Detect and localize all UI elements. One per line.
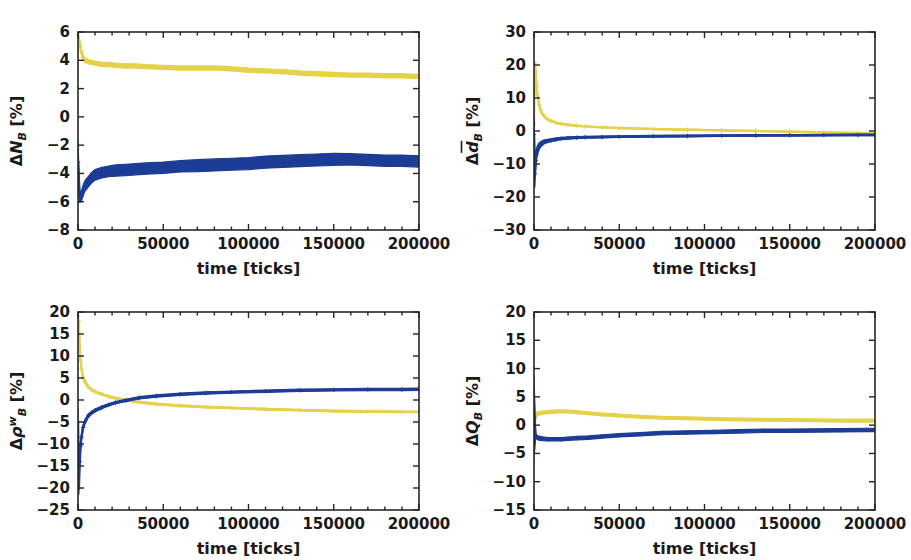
x-axis-label: time [ticks] (197, 539, 301, 558)
svg-text:ΔQB [%]: ΔQB [%] (463, 376, 485, 447)
x-tick-label: 100000 (217, 515, 280, 533)
series-markers-yellow (532, 61, 877, 135)
chart-panel-panel-QB: 050000100000150000200000time [ticks]2015… (456, 280, 911, 560)
y-tick-label: 5 (60, 369, 70, 387)
x-tick-label: 100000 (673, 235, 736, 253)
x-axis-label: time [ticks] (197, 259, 301, 278)
y-tick-label: 5 (516, 388, 526, 406)
series-line-yellow (534, 64, 875, 134)
svg-text:ΔNB [%]: ΔNB [%] (7, 96, 29, 166)
y-axis-label: ΔρwB [%] (6, 372, 29, 451)
svg-text:ΔdB [%]: ΔdB [%] (463, 97, 485, 165)
y-tick-label: 4 (60, 51, 70, 69)
series-band-blue (78, 141, 419, 203)
x-tick-label: 0 (529, 515, 539, 533)
y-tick-label: −10 (493, 155, 526, 173)
x-tick-label: 100000 (673, 515, 736, 533)
y-tick-label: 20 (505, 303, 526, 321)
y-tick-label: −2 (47, 136, 70, 154)
plot-area (532, 61, 877, 187)
y-tick-label: 0 (516, 122, 526, 140)
y-axis-label: ΔQB [%] (463, 376, 485, 447)
series-band-blue (78, 388, 419, 494)
y-tick-label: 6 (60, 23, 70, 41)
series-markers-yellow (76, 35, 421, 78)
series-markers-blue (76, 387, 421, 490)
x-tick-label: 150000 (758, 515, 821, 533)
x-axis: 050000100000150000200000 (529, 32, 907, 253)
y-tick-label: 10 (505, 360, 526, 378)
y-tick-label: 20 (49, 303, 70, 321)
y-tick-label: 2 (60, 80, 70, 98)
y-tick-label: −10 (37, 435, 70, 453)
chart-panel-panel-dB: 050000100000150000200000time [ticks]3020… (456, 0, 911, 280)
x-tick-label: 150000 (302, 235, 365, 253)
y-tick-label: 15 (505, 331, 526, 349)
y-axis-label: ΔNB [%] (7, 96, 29, 166)
y-tick-label: −15 (37, 457, 70, 475)
x-axis-label: time [ticks] (653, 259, 757, 278)
x-tick-label: 50000 (137, 235, 189, 253)
plot-area (532, 376, 877, 465)
x-axis-label: time [ticks] (653, 539, 757, 558)
x-tick-label: 100000 (217, 235, 280, 253)
y-tick-label: −4 (47, 164, 70, 182)
y-tick-label: 15 (49, 325, 70, 343)
axes-frame (78, 32, 419, 230)
series-line-blue (78, 389, 419, 488)
series-band-blue (534, 376, 875, 458)
series-line-blue (534, 134, 875, 174)
y-tick-label: 0 (60, 391, 70, 409)
x-tick-label: 50000 (593, 235, 645, 253)
y-tick-label: −20 (37, 479, 70, 497)
chart-panel-panel-NB: 050000100000150000200000time [ticks]6420… (0, 0, 455, 280)
y-tick-label: −5 (47, 413, 70, 431)
y-tick-label: 0 (60, 108, 70, 126)
x-tick-label: 200000 (388, 515, 451, 533)
x-axis: 050000100000150000200000 (73, 312, 451, 533)
x-tick-label: 200000 (844, 235, 907, 253)
y-tick-label: 0 (516, 416, 526, 434)
y-tick-label: 10 (505, 89, 526, 107)
x-tick-label: 0 (73, 235, 83, 253)
y-tick-label: −6 (47, 193, 70, 211)
x-tick-label: 0 (529, 235, 539, 253)
y-tick-label: −30 (493, 221, 526, 239)
svg-text:ΔρwB [%]: ΔρwB [%] (6, 372, 29, 451)
y-tick-label: −10 (493, 473, 526, 491)
y-tick-label: 20 (505, 56, 526, 74)
y-tick-label: −25 (37, 501, 70, 519)
y-tick-label: −20 (493, 188, 526, 206)
figure-root: 050000100000150000200000time [ticks]6420… (0, 0, 911, 560)
x-tick-label: 200000 (388, 235, 451, 253)
x-tick-label: 150000 (302, 515, 365, 533)
chart-panel-panel-rhoB: 050000100000150000200000time [ticks]2015… (0, 280, 455, 560)
y-tick-label: −5 (503, 444, 526, 462)
x-tick-label: 200000 (844, 515, 907, 533)
y-axis-label: ΔdB [%] (462, 97, 486, 165)
plot-area (76, 315, 421, 494)
x-tick-label: 50000 (137, 515, 189, 533)
y-tick-label: −8 (47, 221, 70, 239)
plot-area (76, 30, 421, 203)
x-tick-label: 150000 (758, 235, 821, 253)
y-tick-label: 10 (49, 347, 70, 365)
y-tick-label: −15 (493, 501, 526, 519)
x-tick-label: 0 (73, 515, 83, 533)
y-axis: 6420−2−4−6−8 (47, 23, 419, 239)
series-band-yellow (534, 61, 875, 134)
y-tick-label: 30 (505, 23, 526, 41)
x-tick-label: 50000 (593, 515, 645, 533)
